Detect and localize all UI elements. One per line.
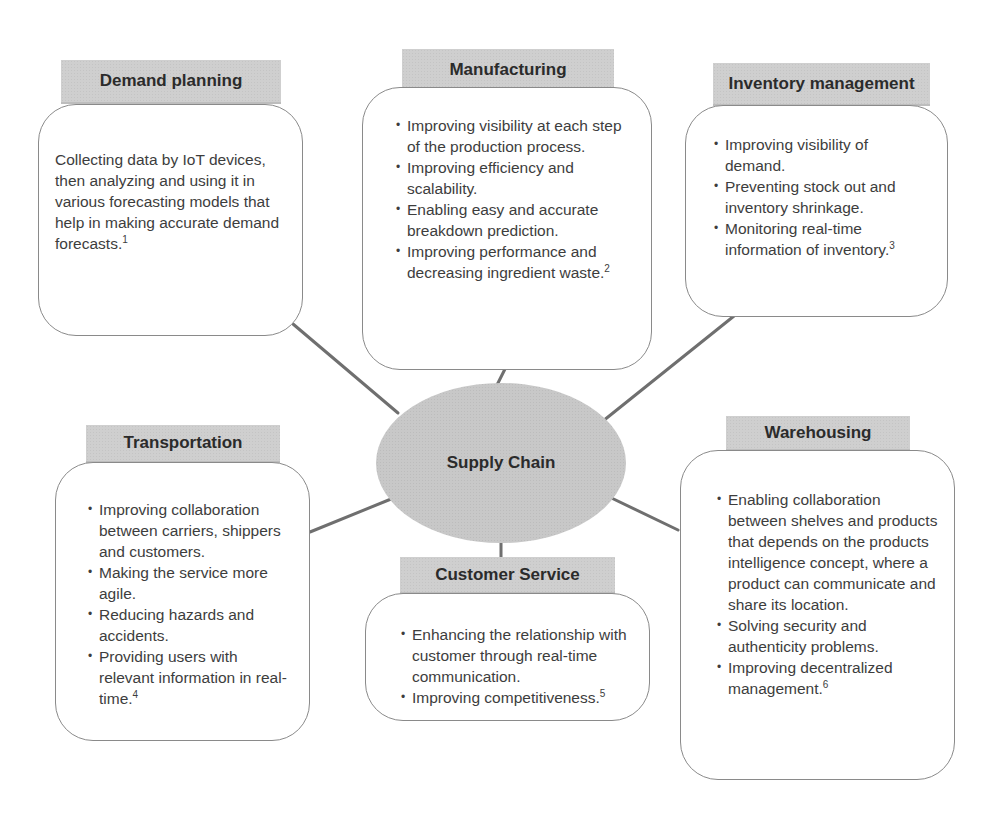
demand-planning-title: Demand planning: [100, 71, 243, 91]
transportation-box: Improving collaboration between carriers…: [55, 462, 310, 741]
list-item: Improving competitiveness.5: [401, 687, 635, 708]
demand-planning-header: Demand planning: [61, 60, 281, 104]
transportation-header: Transportation: [86, 425, 280, 463]
list-item: Enhancing the relationship with customer…: [401, 624, 635, 687]
list-item: Monitoring real-time information of inve…: [714, 218, 929, 260]
list-item: Enabling collaboration between shelves a…: [717, 489, 940, 615]
supply-chain-center-node: Supply Chain: [376, 383, 626, 543]
list-item: Providing users with relevant informatio…: [88, 646, 295, 709]
list-item: Reducing hazards and accidents.: [88, 604, 295, 646]
transportation-title: Transportation: [123, 433, 242, 453]
inventory-management-list: Improving visibility of demand. Preventi…: [714, 134, 929, 260]
list-item: Improving performance and decreasing ing…: [396, 241, 635, 283]
customer-service-title: Customer Service: [435, 565, 580, 585]
customer-service-header: Customer Service: [400, 557, 615, 594]
manufacturing-title: Manufacturing: [449, 60, 566, 80]
warehousing-list: Enabling collaboration between shelves a…: [717, 489, 940, 699]
manufacturing-header: Manufacturing: [402, 49, 614, 92]
inventory-management-header: Inventory management: [713, 63, 930, 106]
demand-planning-text: Collecting data by IoT devices, then ana…: [55, 149, 288, 254]
list-item: Improving visibility at each step of the…: [396, 115, 635, 157]
list-item: Improving decentralized management.6: [717, 657, 940, 699]
customer-service-list: Enhancing the relationship with customer…: [401, 624, 635, 708]
list-item: Improving visibility of demand.: [714, 134, 929, 176]
manufacturing-box: Improving visibility at each step of the…: [362, 87, 652, 370]
list-item: Improving efficiency and scalability.: [396, 157, 635, 199]
list-item: Making the service more agile.: [88, 562, 295, 604]
list-item: Enabling easy and accurate breakdown pre…: [396, 199, 635, 241]
inventory-management-box: Improving visibility of demand. Preventi…: [685, 105, 948, 317]
inventory-management-title: Inventory management: [728, 74, 914, 94]
warehousing-box: Enabling collaboration between shelves a…: [680, 450, 955, 780]
list-item: Solving security and authenticity proble…: [717, 615, 940, 657]
customer-service-box: Enhancing the relationship with customer…: [365, 593, 650, 721]
warehousing-title: Warehousing: [764, 423, 871, 443]
supply-chain-label: Supply Chain: [447, 453, 556, 473]
transportation-list: Improving collaboration between carriers…: [88, 499, 295, 709]
list-item: Preventing stock out and inventory shrin…: [714, 176, 929, 218]
warehousing-header: Warehousing: [726, 416, 910, 451]
manufacturing-list: Improving visibility at each step of the…: [396, 115, 635, 283]
connector-transportation: [310, 497, 396, 532]
demand-planning-box: Collecting data by IoT devices, then ana…: [38, 104, 303, 336]
list-item: Improving collaboration between carriers…: [88, 499, 295, 562]
